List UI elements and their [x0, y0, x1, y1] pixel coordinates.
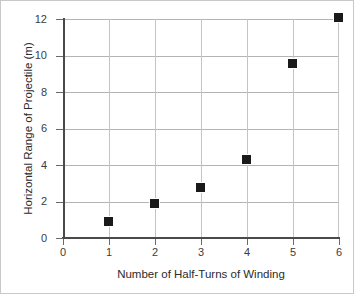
- y-tick-mark: [56, 19, 63, 20]
- y-tick-mark: [56, 165, 63, 166]
- x-tick-mark: [339, 239, 340, 245]
- x-tick-label: 0: [51, 247, 75, 258]
- x-tick-mark: [293, 239, 294, 245]
- y-tick-mark: [56, 129, 63, 130]
- data-point-marker: [195, 182, 206, 193]
- x-tick-label: 3: [189, 247, 213, 258]
- x-tick-label: 5: [281, 247, 305, 258]
- x-tick-label: 4: [235, 247, 259, 258]
- data-point-marker: [241, 154, 252, 165]
- data-point-marker: [103, 216, 114, 227]
- chart-figure: 024681012 0123456 Horizontal Range of Pr…: [0, 0, 354, 294]
- gridline-vertical: [109, 19, 110, 238]
- x-tick-mark: [63, 239, 64, 245]
- data-point-marker: [149, 198, 160, 209]
- x-tick-mark: [155, 239, 156, 245]
- x-tick-label: 6: [327, 247, 351, 258]
- gridline-vertical: [338, 19, 339, 238]
- x-tick-label: 1: [97, 247, 121, 258]
- data-point-marker: [287, 58, 298, 69]
- x-tick-label: 2: [143, 247, 167, 258]
- gridline-vertical: [201, 19, 202, 238]
- y-tick-mark: [56, 92, 63, 93]
- gridline-vertical: [293, 19, 294, 238]
- data-point-marker: [333, 12, 344, 23]
- y-tick-mark: [56, 238, 63, 239]
- y-tick-mark: [56, 56, 63, 57]
- y-axis-line: [63, 18, 65, 239]
- x-tick-mark: [247, 239, 248, 245]
- x-axis-label: Number of Half-Turns of Winding: [63, 267, 339, 281]
- plot-area: [63, 19, 339, 238]
- gridline-vertical: [247, 19, 248, 238]
- y-tick-mark: [56, 202, 63, 203]
- x-tick-mark: [201, 239, 202, 245]
- x-tick-mark: [109, 239, 110, 245]
- y-axis-label: Horizontal Range of Projectile (m): [19, 19, 37, 238]
